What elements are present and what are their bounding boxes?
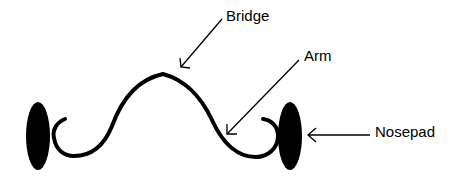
right-nosepad bbox=[278, 102, 302, 170]
arm-label: Arm bbox=[304, 48, 332, 63]
glasses-diagram: Bridge Arm Nosepad bbox=[0, 0, 467, 182]
bridge-label: Bridge bbox=[226, 8, 269, 23]
bridge-arrow bbox=[180, 19, 222, 68]
nosepad-label: Nosepad bbox=[375, 124, 435, 139]
nosepad-arrow bbox=[308, 128, 370, 142]
left-nosepad bbox=[26, 102, 50, 170]
